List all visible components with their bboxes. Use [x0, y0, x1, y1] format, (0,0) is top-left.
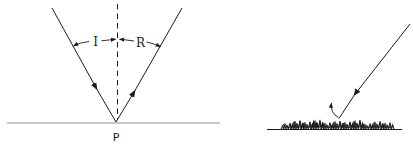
incident-ray	[52, 8, 116, 122]
rough-surface-texture	[281, 120, 394, 129]
reflection-figure-canvas: I R P	[0, 0, 413, 145]
reflection-angle-arrow-right	[147, 42, 161, 47]
diffuse-reflection-diagram	[267, 24, 410, 130]
incidence-angle-arrow-right	[102, 39, 116, 41]
reflection-angle-arrow-left	[120, 39, 135, 41]
scattered-ray-arrow	[331, 103, 338, 118]
figure-reflection-diagrams: I R P	[0, 0, 413, 145]
point-label: P	[113, 131, 120, 144]
reflected-ray	[116, 8, 182, 122]
specular-reflection-diagram: I R P	[7, 4, 220, 144]
incident-angle-label: I	[93, 35, 98, 49]
reflected-angle-label: R	[136, 36, 146, 50]
incident-ray-rough	[339, 24, 410, 119]
incidence-angle-arrow-left	[74, 42, 90, 47]
